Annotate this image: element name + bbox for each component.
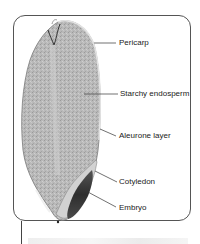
label-cotyledon: Cotyledon — [119, 177, 155, 187]
label-pericarp: Pericarp — [119, 38, 149, 48]
label-embryo: Embryo — [119, 203, 147, 213]
label-starchy-endosperm: Starchy endosperm — [120, 89, 189, 99]
label-aleurone-layer: Aleurone layer — [119, 131, 171, 141]
kernel-section-illustration — [0, 0, 200, 244]
